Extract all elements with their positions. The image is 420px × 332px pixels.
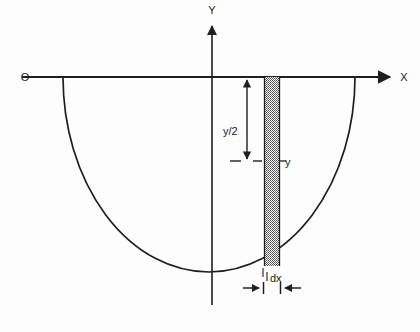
x-axis-label: X	[400, 71, 408, 83]
y-axis-label: Y	[208, 4, 216, 16]
strip-fill	[264, 77, 280, 266]
dx-label: dx	[270, 272, 282, 284]
semicircle-integration-figure: O X Y y/2 y dx	[0, 0, 420, 332]
depth-label: y	[285, 156, 291, 168]
semicircle-arc	[63, 77, 355, 272]
differential-strip	[264, 77, 280, 266]
origin-label: O	[21, 71, 30, 83]
half-height-label: y/2	[223, 125, 238, 137]
diagram-canvas: O X Y y/2 y dx	[0, 0, 420, 332]
